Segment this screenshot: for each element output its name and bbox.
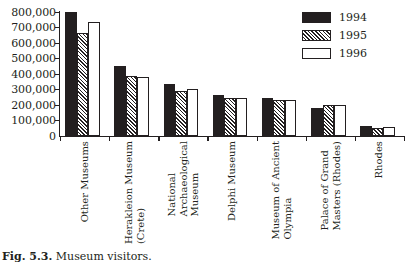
bar bbox=[175, 91, 187, 136]
y-axis-tick-label: 200,000 bbox=[11, 100, 56, 111]
x-axis-category-label: Other Museums bbox=[60, 141, 109, 241]
caption-id: Fig. 5.3. bbox=[2, 250, 52, 263]
legend: 199419951996 bbox=[302, 10, 410, 64]
legend-swatch bbox=[302, 48, 331, 59]
x-axis-category-label: NationalArchaeologicalMuseum bbox=[158, 141, 207, 241]
bar bbox=[334, 105, 346, 136]
figure-museum-visitors: 800,000700,000600,000500,000400,000300,0… bbox=[0, 0, 418, 270]
x-axis-category-label: Museum of AncientOlympia bbox=[257, 141, 306, 241]
x-axis-category-line: Masters (Rhodes) bbox=[330, 141, 342, 231]
bar bbox=[273, 100, 285, 136]
bar bbox=[383, 127, 395, 136]
x-axis-tick-mark bbox=[207, 137, 208, 141]
x-axis-tick-mark bbox=[158, 137, 159, 141]
x-axis-category-line: Archaeological bbox=[177, 141, 189, 217]
x-axis-category-line: (Crete) bbox=[134, 141, 146, 244]
x-axis-line bbox=[59, 136, 405, 137]
x-axis-category-line: Rhodes bbox=[374, 141, 386, 178]
x-axis-tick-mark bbox=[306, 137, 307, 141]
x-axis-tick-mark bbox=[355, 137, 356, 141]
x-axis-category-line: Other Museums bbox=[79, 141, 91, 222]
y-axis-tick-label: 0 bbox=[49, 131, 56, 142]
bar bbox=[77, 33, 89, 136]
legend-swatch bbox=[302, 30, 331, 41]
bar bbox=[224, 98, 236, 136]
x-axis-tick-mark bbox=[109, 137, 110, 141]
x-axis-tick-mark bbox=[257, 137, 258, 141]
x-axis-category-text: Other Museums bbox=[79, 141, 91, 222]
bar bbox=[114, 66, 126, 136]
bar bbox=[360, 126, 372, 136]
x-axis-category-label: Palace of GrandMasters (Rhodes) bbox=[306, 141, 355, 241]
figure-caption: Fig. 5.3. Museum visitors. bbox=[2, 250, 152, 263]
bar bbox=[262, 98, 274, 136]
bar-group bbox=[164, 12, 199, 136]
legend-item: 1996 bbox=[302, 46, 410, 61]
x-axis-category-line: Delphi Museum bbox=[226, 141, 238, 221]
x-axis-tick-mark bbox=[60, 137, 61, 141]
y-axis-tick-mark bbox=[55, 105, 60, 106]
y-axis-tick-label: 500,000 bbox=[11, 53, 56, 64]
y-axis-tick-label: 600,000 bbox=[11, 38, 56, 49]
x-axis-category-line: Herakleion Museum bbox=[122, 141, 134, 244]
legend-label: 1995 bbox=[339, 30, 367, 41]
y-axis-tick-label: 400,000 bbox=[11, 69, 56, 80]
x-axis-category-line: Museum of Ancient bbox=[270, 141, 282, 240]
bar bbox=[187, 89, 199, 136]
bar-group bbox=[114, 12, 149, 136]
caption-text: Museum visitors. bbox=[56, 250, 152, 263]
y-axis-tick-mark bbox=[55, 58, 60, 59]
x-axis-category-text: Rhodes bbox=[374, 141, 386, 178]
x-axis-category-text: Palace of GrandMasters (Rhodes) bbox=[319, 141, 342, 231]
y-axis-tick-mark bbox=[55, 89, 60, 90]
x-axis-category-label: Rhodes bbox=[355, 141, 404, 241]
bar bbox=[65, 12, 77, 136]
x-axis-category-label: Delphi Museum bbox=[207, 141, 256, 241]
bar-group bbox=[213, 12, 248, 136]
bar-group bbox=[262, 12, 297, 136]
x-axis-category-label: Herakleion Museum(Crete) bbox=[109, 141, 158, 241]
bar bbox=[372, 128, 384, 136]
bar bbox=[323, 105, 335, 136]
x-axis-category-line: Museum bbox=[189, 141, 201, 217]
y-axis-tick-label: 100,000 bbox=[11, 115, 56, 126]
x-axis-category-labels: Other MuseumsHerakleion Museum(Crete)Nat… bbox=[0, 141, 418, 246]
bar bbox=[137, 77, 149, 136]
y-axis-tick-label: 300,000 bbox=[11, 84, 56, 95]
x-axis-tick-mark bbox=[404, 137, 405, 141]
y-axis-tick-mark bbox=[55, 12, 60, 13]
bar bbox=[126, 76, 138, 136]
legend-label: 1996 bbox=[339, 48, 367, 59]
x-axis-category-line: Olympia bbox=[281, 141, 293, 240]
bar bbox=[285, 100, 297, 136]
legend-item: 1995 bbox=[302, 28, 410, 43]
bar bbox=[88, 22, 100, 136]
legend-swatch bbox=[302, 12, 331, 23]
y-axis-tick-mark bbox=[55, 74, 60, 75]
x-axis-category-line: Palace of Grand bbox=[319, 141, 331, 231]
bar bbox=[164, 84, 176, 136]
x-axis-category-text: Delphi Museum bbox=[226, 141, 238, 221]
y-axis-tick-label: 700,000 bbox=[11, 22, 56, 33]
x-axis-category-text: Museum of AncientOlympia bbox=[270, 141, 293, 240]
bar bbox=[311, 108, 323, 136]
legend-item: 1994 bbox=[302, 10, 410, 25]
y-axis-tick-mark bbox=[55, 27, 60, 28]
y-axis-tick-mark bbox=[55, 43, 60, 44]
y-axis-tick-mark bbox=[55, 120, 60, 121]
legend-label: 1994 bbox=[339, 12, 367, 23]
x-axis-category-text: NationalArchaeologicalMuseum bbox=[166, 141, 201, 217]
bar-group bbox=[65, 12, 100, 136]
x-axis-category-line: National bbox=[166, 141, 178, 217]
x-axis-category-text: Herakleion Museum(Crete) bbox=[122, 141, 145, 244]
bar bbox=[213, 95, 225, 136]
y-axis-tick-label: 800,000 bbox=[11, 7, 56, 18]
bar bbox=[236, 98, 248, 136]
